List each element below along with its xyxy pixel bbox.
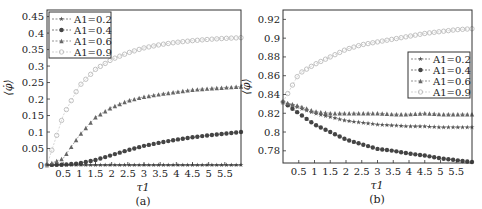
dot-marker	[122, 149, 126, 153]
panel-caption: (a)	[135, 195, 150, 208]
dot-marker	[181, 136, 185, 140]
dot-marker	[451, 158, 455, 162]
triangle-marker	[118, 102, 122, 106]
triangle-marker	[69, 145, 73, 149]
legend-entry-label: A1=0.9	[73, 47, 112, 58]
y-tick-label: 0.86	[258, 70, 280, 81]
dot-marker	[314, 123, 318, 127]
dot-marker	[361, 142, 365, 146]
triangle-marker	[190, 88, 194, 92]
y-tick-label: 0.1	[28, 127, 44, 138]
legend-entry-label: A1=0.2	[73, 14, 112, 25]
x-axis-label: τ1	[370, 179, 383, 192]
dot-marker	[88, 159, 92, 163]
dot-marker	[304, 117, 308, 121]
dot-marker	[98, 156, 102, 160]
dot-marker	[385, 148, 389, 152]
x-tick-label: 1.5	[322, 166, 338, 177]
triangle-marker	[166, 91, 170, 95]
triangle-marker	[113, 104, 117, 108]
dot-marker	[127, 148, 131, 152]
y-tick-label: 0.25	[22, 77, 44, 88]
dot-marker	[300, 113, 304, 117]
circle-marker	[69, 98, 73, 102]
star-marker	[427, 124, 432, 129]
legend-entry-label: A1=0.9	[432, 87, 471, 98]
dot-marker	[103, 155, 107, 159]
dot-marker	[147, 143, 151, 147]
circle-marker	[333, 52, 337, 56]
star-marker	[342, 118, 347, 123]
dot-marker	[427, 154, 431, 158]
star-marker	[451, 125, 456, 130]
triangle-marker	[441, 112, 445, 116]
dot-marker	[229, 131, 233, 135]
star-marker	[384, 122, 389, 127]
dot-marker	[176, 137, 180, 141]
x-tick-label: 4.5	[417, 166, 433, 177]
x-tick-label: 2.5	[120, 168, 136, 179]
y-tick-label: 0.92	[258, 14, 280, 25]
dot-marker	[132, 146, 136, 150]
dot-marker	[441, 156, 445, 160]
x-tick-label: 2	[108, 168, 114, 179]
dot-marker	[352, 140, 356, 144]
circle-marker	[323, 57, 327, 61]
star-marker	[446, 125, 451, 130]
triangle-marker	[347, 111, 351, 115]
dot-marker	[224, 131, 228, 135]
legend-entry-label: A1=0.4	[432, 65, 471, 76]
dot-marker	[93, 158, 97, 162]
star-marker	[436, 125, 441, 130]
circle-marker	[108, 58, 112, 62]
legend: A1=0.2A1=0.4A1=0.6A1=0.9	[408, 52, 471, 98]
dot-marker	[215, 132, 219, 136]
y-tick-label: 0.82	[258, 108, 280, 119]
triangle-marker	[74, 138, 78, 142]
dot-marker	[375, 147, 379, 151]
star-marker	[356, 120, 361, 125]
dot-marker	[219, 132, 223, 136]
dot-marker	[210, 133, 214, 137]
x-tick-label: 5.5	[217, 168, 233, 179]
dot-marker	[356, 141, 360, 145]
triangle-marker	[427, 111, 431, 115]
dot-marker	[118, 150, 122, 154]
dot-marker	[418, 68, 422, 72]
star-marker	[432, 124, 437, 129]
triangle-marker	[300, 105, 304, 109]
x-tick-label: 2	[343, 166, 349, 177]
dot-marker	[319, 125, 323, 129]
circle-marker	[74, 90, 78, 94]
star-marker	[366, 121, 371, 126]
x-tick-label: 3	[141, 168, 147, 179]
series-a1-0-4	[45, 130, 243, 167]
triangle-marker	[181, 89, 185, 93]
circle-marker	[352, 45, 356, 49]
y-tick-label: 0.9	[264, 33, 280, 44]
dot-marker	[156, 141, 160, 145]
dot-marker	[142, 144, 146, 148]
dot-marker	[161, 140, 165, 144]
x-tick-label: 2.5	[354, 166, 370, 177]
dot-marker	[69, 162, 73, 166]
dot-marker	[152, 142, 156, 146]
star-marker	[422, 124, 427, 129]
dot-marker	[333, 132, 337, 136]
triangle-marker	[137, 96, 141, 100]
dot-marker	[137, 145, 141, 149]
x-tick-label: 4	[406, 166, 412, 177]
dot-marker	[234, 130, 238, 134]
triangle-marker	[385, 112, 389, 116]
circle-marker	[64, 107, 68, 111]
dot-marker	[84, 160, 88, 164]
triangle-marker	[456, 112, 460, 116]
dot-marker	[418, 153, 422, 157]
y-axis-label: ⟨φ̇⟩	[240, 78, 253, 94]
star-marker	[380, 122, 385, 127]
legend-entry-label: A1=0.6	[73, 36, 112, 47]
dot-marker	[404, 151, 408, 155]
circle-marker	[304, 67, 308, 71]
series-a1-0-4	[281, 100, 474, 164]
dot-marker	[366, 144, 370, 148]
